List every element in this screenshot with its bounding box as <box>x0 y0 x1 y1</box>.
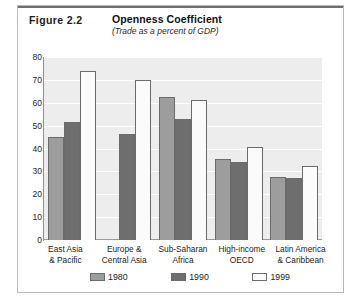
y-axis-tick-label: 70 <box>20 75 42 85</box>
title-block: Openness Coefficient (Trade as a percent… <box>112 13 222 36</box>
category-label-line: High-income <box>212 244 271 255</box>
legend-item[interactable]: 1999 <box>252 272 290 282</box>
bar-groups <box>44 57 322 240</box>
figure-header: Figure 2.2 Openness Coefficient (Trade a… <box>29 13 329 41</box>
bar <box>286 178 302 240</box>
y-axis-tick-labels: 01020304050607080 <box>16 57 42 240</box>
category-label: Europe &Central Asia <box>95 244 154 265</box>
figure-container: Figure 2.2 Openness Coefficient (Trade a… <box>0 0 349 297</box>
category-label-line: Latin America <box>271 244 330 255</box>
legend-label: 1990 <box>189 272 209 282</box>
bar-group <box>155 57 211 240</box>
legend-swatch <box>252 273 267 281</box>
bar <box>159 97 175 240</box>
bar <box>215 159 231 240</box>
bar <box>48 137 64 240</box>
legend-item[interactable]: 1990 <box>171 272 209 282</box>
category-label-line: Africa <box>154 255 213 266</box>
bar <box>119 134 135 240</box>
legend-swatch <box>171 273 186 281</box>
legend-item[interactable]: 1980 <box>90 272 128 282</box>
y-axis-tick-label: 10 <box>20 212 42 222</box>
bar <box>191 100 207 240</box>
y-axis-tick-label: 80 <box>20 52 42 62</box>
legend-label: 1980 <box>108 272 128 282</box>
bar-group <box>44 57 100 240</box>
bar-group <box>211 57 267 240</box>
category-label-line: East Asia <box>36 244 95 255</box>
legend-swatch <box>90 273 105 281</box>
bar <box>80 71 96 240</box>
category-label-line: & Caribbean <box>271 255 330 266</box>
legend-label: 1999 <box>270 272 290 282</box>
bar <box>64 122 80 240</box>
y-axis-tick-label: 20 <box>20 189 42 199</box>
category-label-line: OECD <box>212 255 271 266</box>
category-label-line: Europe & <box>95 244 154 255</box>
y-axis-tick-label: 40 <box>20 144 42 154</box>
category-label: East Asia& Pacific <box>36 244 95 265</box>
figure-number: Figure 2.2 <box>29 14 83 26</box>
figure-subtitle: (Trade as a percent of GDP) <box>112 26 222 36</box>
y-axis-tick-label: 50 <box>20 121 42 131</box>
bar <box>175 119 191 240</box>
bar <box>231 162 247 240</box>
category-label: High-incomeOECD <box>212 244 271 265</box>
y-axis-tick-label: 60 <box>20 98 42 108</box>
bar <box>302 166 318 240</box>
category-label: Latin America& Caribbean <box>271 244 330 265</box>
header-rule <box>18 6 343 8</box>
bar <box>270 177 286 240</box>
category-labels: East Asia& PacificEurope &Central AsiaSu… <box>36 244 330 265</box>
bar-group <box>266 57 322 240</box>
category-label: Sub-SaharanAfrica <box>154 244 213 265</box>
category-label-line: & Pacific <box>36 255 95 266</box>
bar <box>247 147 263 240</box>
y-axis-tick-label: 30 <box>20 166 42 176</box>
chart-legend: 198019901999 <box>90 272 290 282</box>
figure-title: Openness Coefficient <box>112 13 222 25</box>
bar <box>135 80 151 240</box>
category-label-line: Central Asia <box>95 255 154 266</box>
category-label-line: Sub-Saharan <box>154 244 213 255</box>
bar-group <box>100 57 156 240</box>
